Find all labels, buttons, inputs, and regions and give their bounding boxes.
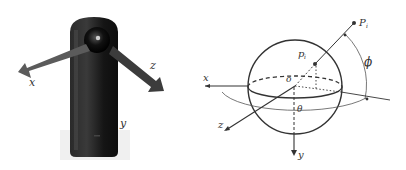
ray-outer <box>315 23 354 64</box>
y-arrowhead <box>291 150 297 156</box>
sphere-illustration: x z y o θ ϕ P i p i <box>200 0 406 170</box>
svg-text:i: i <box>366 22 368 29</box>
z-axis-line <box>226 86 295 130</box>
theta-label: θ <box>297 104 303 114</box>
ray-inner <box>295 64 315 86</box>
camera-figure: x z y <box>0 0 200 170</box>
point-sphere <box>313 62 317 66</box>
projection-line <box>295 86 341 92</box>
projection-ray <box>341 92 390 100</box>
sphere-diagram: x z y o θ ϕ P i p i <box>200 0 406 170</box>
theta-arc-end <box>366 98 369 101</box>
phi-label: ϕ <box>364 55 372 69</box>
point-world-label: P i <box>358 17 368 29</box>
lens-glint <box>96 36 100 40</box>
svg-text:P: P <box>358 17 366 28</box>
x-label: x <box>203 72 209 83</box>
camera-illustration: x z y <box>0 0 200 170</box>
point-sphere-label: p i <box>298 48 306 60</box>
point-world <box>352 21 356 25</box>
unit-sphere <box>248 40 342 134</box>
z-arrowhead <box>224 126 230 131</box>
y-label: y <box>297 149 304 160</box>
x-axis-label: x <box>29 76 36 89</box>
equator-front <box>248 87 342 98</box>
y-axis-label: y <box>119 117 127 130</box>
origin-label: o <box>286 74 292 84</box>
x-arrowhead <box>205 84 210 88</box>
z-label: z <box>217 119 224 130</box>
phi-arc-end <box>344 34 347 37</box>
svg-text:i: i <box>304 53 306 60</box>
z-axis-label: z <box>149 59 156 72</box>
logo-mark <box>94 135 100 137</box>
